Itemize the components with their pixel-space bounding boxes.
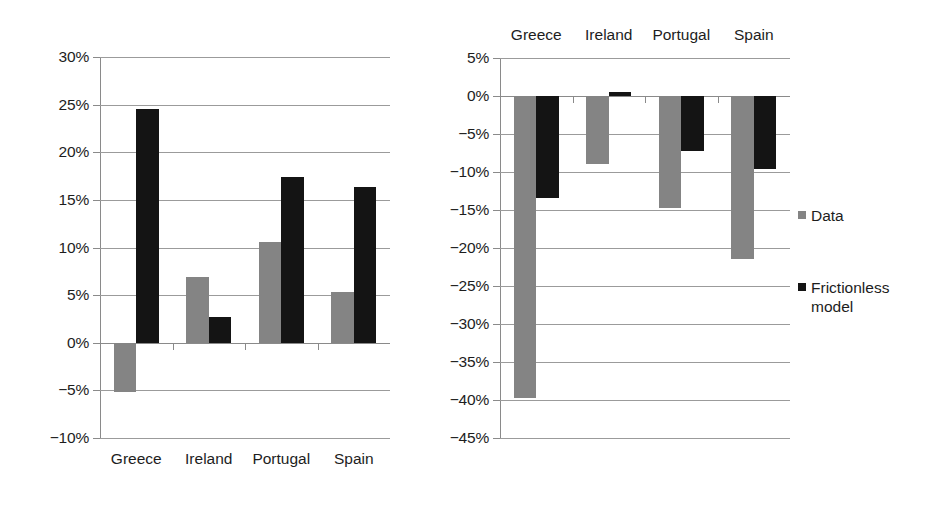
y-axis-label: 25% [25, 96, 89, 114]
right-plot-area [500, 58, 790, 438]
bar-greece-data [114, 343, 136, 393]
y-axis-label: 20% [25, 143, 89, 161]
bar-ireland-data [186, 277, 208, 343]
category-label-spain: Spain [318, 450, 391, 468]
y-axis-label: −5% [425, 125, 489, 143]
y-axis-label: −20% [425, 239, 489, 257]
y-axis-tick [493, 96, 500, 97]
left-bar-chart: 30%25%20%15%10%5%0%−5%−10%GreeceIrelandP… [0, 0, 440, 515]
y-axis-tick [493, 286, 500, 287]
y-axis-label: −10% [25, 429, 89, 447]
gridline [100, 57, 390, 58]
y-axis-tick [93, 248, 100, 249]
bar-spain-data [731, 96, 753, 259]
bar-spain-model [754, 96, 776, 169]
category-tick [573, 96, 574, 103]
y-axis-tick [493, 362, 500, 363]
y-axis-label: 15% [25, 191, 89, 209]
y-axis-label: −15% [425, 201, 489, 219]
gridline [500, 286, 790, 287]
y-axis-tick [93, 152, 100, 153]
y-axis-label: 0% [425, 87, 489, 105]
legend-label-frictionless-model: Frictionless model [811, 278, 889, 316]
gridline [500, 438, 790, 439]
y-axis-label: −45% [425, 429, 489, 447]
gridline [500, 400, 790, 401]
y-axis-label: −35% [425, 353, 489, 371]
y-axis-tick [93, 105, 100, 106]
category-label-ireland: Ireland [173, 450, 246, 468]
gridline [100, 105, 390, 106]
category-label-portugal: Portugal [645, 26, 718, 44]
bar-greece-data [514, 96, 536, 398]
bar-spain-data [331, 292, 353, 342]
category-tick [173, 343, 174, 350]
bar-portugal-data [659, 96, 681, 208]
category-tick [645, 96, 646, 103]
y-axis-tick [493, 210, 500, 211]
bar-spain-model [354, 187, 376, 342]
bar-ireland-data [586, 96, 608, 164]
y-axis-tick [93, 200, 100, 201]
y-axis-label: 0% [25, 334, 89, 352]
legend-label-data: Data [811, 206, 844, 225]
category-label-ireland: Ireland [573, 26, 646, 44]
y-axis-label: −40% [425, 391, 489, 409]
bar-portugal-data [259, 242, 281, 343]
bar-ireland-model [209, 317, 231, 343]
legend-swatch-data-icon [798, 211, 806, 219]
legend-swatch-model-icon [798, 283, 806, 291]
y-axis-tick [93, 390, 100, 391]
y-axis-tick [93, 438, 100, 439]
y-axis-tick [93, 57, 100, 58]
bar-portugal-model [281, 177, 303, 343]
gridline [500, 324, 790, 325]
y-axis-tick [493, 324, 500, 325]
y-axis-label: −5% [25, 381, 89, 399]
y-axis-tick [93, 295, 100, 296]
category-label-greece: Greece [100, 450, 173, 468]
legend-item-frictionless-model: Frictionless model [798, 278, 889, 316]
bar-greece-model [136, 109, 158, 342]
gridline [100, 390, 390, 391]
y-axis-label: 5% [425, 49, 489, 67]
category-label-spain: Spain [718, 26, 791, 44]
gridline [500, 362, 790, 363]
bar-greece-model [536, 96, 558, 198]
y-axis-label: 10% [25, 239, 89, 257]
y-axis-tick [493, 134, 500, 135]
y-axis-tick [493, 400, 500, 401]
figure-two-panel-bar-charts: 30%25%20%15%10%5%0%−5%−10%GreeceIrelandP… [0, 0, 930, 515]
y-axis-label: 5% [25, 286, 89, 304]
y-axis-label: 30% [25, 48, 89, 66]
category-label-greece: Greece [500, 26, 573, 44]
gridline [100, 438, 390, 439]
y-axis-tick [493, 172, 500, 173]
category-tick [245, 343, 246, 350]
y-axis-tick [493, 438, 500, 439]
category-label-portugal: Portugal [245, 450, 318, 468]
y-axis-label: −30% [425, 315, 489, 333]
category-tick [718, 96, 719, 103]
bar-portugal-model [681, 96, 703, 151]
chart-legend: Data Frictionless model [798, 200, 928, 320]
y-axis-label: −25% [425, 277, 489, 295]
y-axis-tick [493, 248, 500, 249]
left-plot-area [100, 57, 390, 438]
category-tick [318, 343, 319, 350]
y-axis-tick [493, 58, 500, 59]
legend-item-data: Data [798, 206, 844, 225]
gridline [500, 58, 790, 59]
bar-ireland-model [609, 92, 631, 96]
y-axis-label: −10% [425, 163, 489, 181]
y-axis-tick [93, 343, 100, 344]
